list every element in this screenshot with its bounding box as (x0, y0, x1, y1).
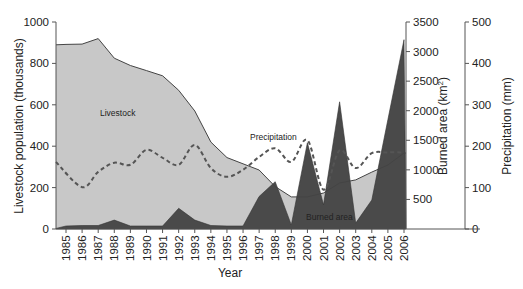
burned-area-axis: 500100015002000250030003500 (406, 16, 439, 229)
x-tick-label: 1995 (221, 235, 233, 261)
x-tick-label: 1986 (76, 235, 88, 261)
left-tick-label: 400 (30, 140, 49, 152)
precipitation-tick-label: 400 (472, 57, 491, 69)
burned-axis-title: Burned area (km2) (436, 77, 451, 175)
plot-area (56, 39, 406, 229)
x-tick-label: 1998 (269, 235, 281, 261)
x-axis-title: Year (218, 266, 242, 280)
burned-tick-label: 500 (413, 193, 432, 205)
burned-tick-label: 1000 (413, 164, 439, 176)
left-tick-label: 600 (30, 99, 49, 111)
precipitation-axis-title: Precipitation (mm) (500, 77, 514, 174)
burned-tick-label: 3000 (413, 46, 439, 58)
x-tick-label: 1994 (205, 235, 217, 261)
x-tick-label: 2005 (382, 235, 394, 261)
x-tick-label: 1988 (108, 235, 120, 261)
x-tick-label: 1993 (189, 235, 201, 261)
burned-tick-label: 2000 (413, 105, 439, 117)
precipitation-axis: 0100200300400500 (465, 16, 491, 235)
left-tick-label: 800 (30, 57, 49, 69)
x-tick-label: 1991 (157, 235, 169, 261)
precipitation-label: Precipitation (250, 132, 297, 142)
x-tick-label: 1985 (60, 235, 72, 261)
x-tick-label: 2004 (366, 235, 378, 261)
burned-tick-label: 1500 (413, 134, 439, 146)
chart: 02004006008001000 5001000150020002500300… (0, 0, 523, 289)
left-tick-label: 1000 (23, 16, 49, 28)
x-tick-label: 2006 (398, 235, 410, 261)
precipitation-tick-label: 300 (472, 99, 491, 111)
x-tick-label: 2003 (350, 235, 362, 261)
x-tick-label: 1997 (253, 235, 265, 261)
precipitation-tick-label: 200 (472, 140, 491, 152)
x-tick-label: 2002 (334, 235, 346, 261)
x-tick-label: 1987 (92, 235, 104, 261)
x-tick-label: 1999 (285, 235, 297, 261)
x-tick-label: 1992 (173, 235, 185, 261)
x-tick-label: 1996 (237, 235, 249, 261)
left-axis: 02004006008001000 (23, 16, 56, 235)
livestock-area (56, 39, 406, 229)
x-tick-label: 1990 (141, 235, 153, 261)
precipitation-tick-label: 100 (472, 182, 491, 194)
left-tick-label: 0 (43, 223, 49, 235)
x-tick-label: 2000 (301, 235, 313, 261)
left-tick-label: 200 (30, 182, 49, 194)
burned-tick-label: 3500 (413, 16, 439, 28)
x-tick-label: 2001 (318, 235, 330, 261)
x-axis: 1985198619871988198919901991199219931994… (56, 229, 480, 261)
livestock-label: Livestock (100, 108, 136, 118)
x-tick-label: 1989 (124, 235, 136, 261)
left-axis-title: Livestock population (thousands) (12, 38, 26, 213)
burned-area-label: Burned area (306, 212, 353, 222)
precipitation-tick-label: 500 (472, 16, 491, 28)
